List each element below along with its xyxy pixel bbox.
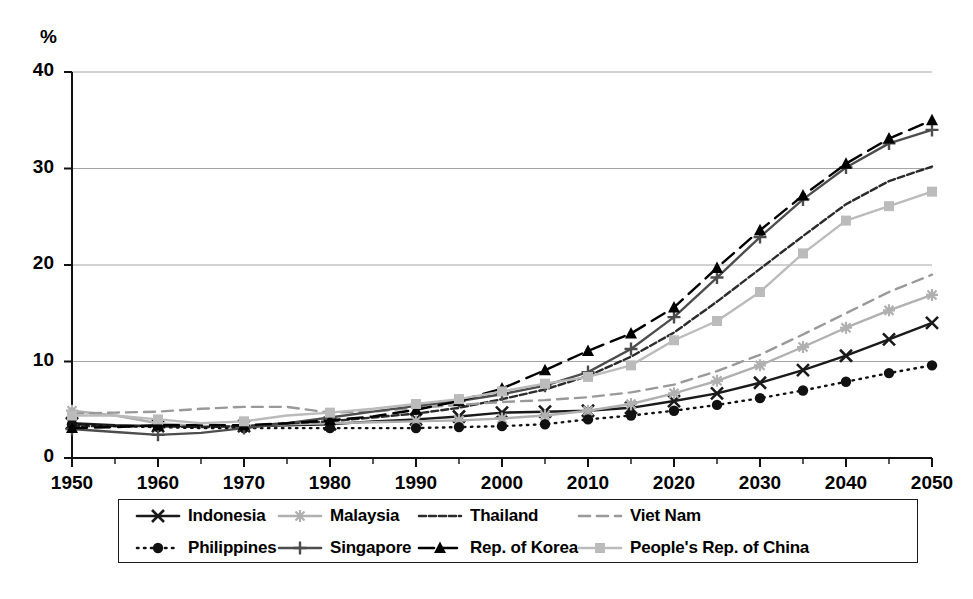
x-tick-label-2040: 2040 bbox=[811, 472, 881, 494]
marker-circle bbox=[841, 377, 851, 387]
marker-square bbox=[626, 360, 636, 370]
marker-star bbox=[754, 359, 766, 371]
marker-circle bbox=[755, 393, 765, 403]
legend-swatch-line-icon bbox=[577, 506, 623, 526]
marker-circle bbox=[454, 422, 464, 432]
marker-square bbox=[841, 216, 851, 226]
marker-square bbox=[583, 372, 593, 382]
y-tick-label-10: 10 bbox=[14, 349, 54, 371]
marker-square bbox=[798, 248, 808, 258]
y-tick-label-20: 20 bbox=[14, 252, 54, 274]
marker-circle bbox=[712, 400, 722, 410]
marker-circle bbox=[497, 421, 507, 431]
marker-triangle bbox=[625, 327, 637, 339]
marker-square bbox=[325, 408, 335, 418]
marker-square bbox=[540, 379, 550, 389]
marker-circle bbox=[884, 368, 894, 378]
legend-swatch-x-icon bbox=[135, 506, 181, 526]
x-tick-label-2010: 2010 bbox=[553, 472, 623, 494]
legend-label: Malaysia bbox=[330, 506, 399, 526]
marker-triangle bbox=[797, 189, 809, 201]
marker-star bbox=[294, 510, 306, 522]
x-tick-label-1990: 1990 bbox=[381, 472, 451, 494]
series-line bbox=[72, 295, 932, 426]
series-line bbox=[72, 120, 932, 428]
legend-label: Philippines bbox=[188, 538, 276, 558]
marker-circle bbox=[798, 385, 808, 395]
marker-circle bbox=[153, 543, 163, 553]
marker-x bbox=[883, 333, 895, 345]
x-tick-label-2030: 2030 bbox=[725, 472, 795, 494]
marker-square bbox=[927, 187, 937, 197]
legend-item-viet-nam[interactable]: Viet Nam bbox=[569, 500, 701, 532]
y-tick-label-40: 40 bbox=[14, 59, 54, 81]
marker-square bbox=[67, 411, 77, 421]
series-line bbox=[72, 323, 932, 426]
marker-circle bbox=[540, 419, 550, 429]
marker-circle bbox=[583, 414, 593, 424]
legend-swatch-plus-icon bbox=[277, 538, 323, 558]
marker-square bbox=[454, 394, 464, 404]
x-tick-label-1970: 1970 bbox=[209, 472, 279, 494]
x-tick-label-2020: 2020 bbox=[639, 472, 709, 494]
marker-plus bbox=[294, 542, 307, 555]
legend-row: PhilippinesSingaporeRep. of KoreaPeople'… bbox=[119, 532, 917, 564]
legend-label: Rep. of Korea bbox=[470, 538, 578, 558]
x-tick-label-1980: 1980 bbox=[295, 472, 365, 494]
marker-star bbox=[926, 289, 938, 301]
legend-swatch-circle-icon bbox=[135, 538, 181, 558]
marker-square bbox=[239, 416, 249, 426]
legend-label: Singapore bbox=[330, 538, 411, 558]
marker-x bbox=[840, 350, 852, 362]
legend-label: Viet Nam bbox=[630, 506, 701, 526]
marker-star bbox=[797, 341, 809, 353]
legend-item-malaysia[interactable]: Malaysia bbox=[269, 500, 399, 532]
marker-square bbox=[411, 399, 421, 409]
marker-square bbox=[153, 414, 163, 424]
marker-square bbox=[712, 316, 722, 326]
x-tick-label-2000: 2000 bbox=[467, 472, 537, 494]
legend-item-rep-of-korea[interactable]: Rep. of Korea bbox=[409, 532, 578, 564]
line-chart: % 01020304019501960197019801990200020102… bbox=[0, 0, 973, 599]
legend-row: IndonesiaMalaysiaThailandViet Nam bbox=[119, 500, 917, 532]
legend-item-indonesia[interactable]: Indonesia bbox=[127, 500, 266, 532]
legend-item-people-s-rep-of-china[interactable]: People's Rep. of China bbox=[569, 532, 809, 564]
legend-swatch-line-icon bbox=[417, 506, 463, 526]
marker-star bbox=[625, 398, 637, 410]
legend-swatch-triangle-icon bbox=[417, 538, 463, 558]
marker-square bbox=[595, 543, 605, 553]
y-tick-label-0: 0 bbox=[14, 445, 54, 467]
x-tick-label-1950: 1950 bbox=[37, 472, 107, 494]
marker-triangle bbox=[926, 114, 938, 126]
x-tick-label-2050: 2050 bbox=[897, 472, 967, 494]
chart-legend: IndonesiaMalaysiaThailandViet NamPhilipp… bbox=[118, 499, 918, 563]
marker-star bbox=[840, 322, 852, 334]
marker-square bbox=[497, 386, 507, 396]
series-malaysia bbox=[66, 289, 938, 432]
marker-circle bbox=[927, 360, 937, 370]
legend-item-singapore[interactable]: Singapore bbox=[269, 532, 411, 564]
marker-x bbox=[926, 317, 938, 329]
marker-circle bbox=[411, 423, 421, 433]
series-rep-of-korea bbox=[66, 114, 938, 433]
marker-star bbox=[883, 304, 895, 316]
x-tick-label-1960: 1960 bbox=[123, 472, 193, 494]
marker-circle bbox=[669, 406, 679, 416]
marker-square bbox=[669, 335, 679, 345]
legend-label: Indonesia bbox=[188, 506, 266, 526]
marker-circle bbox=[626, 410, 636, 420]
legend-item-thailand[interactable]: Thailand bbox=[409, 500, 538, 532]
legend-swatch-star-icon bbox=[277, 506, 323, 526]
marker-star bbox=[711, 375, 723, 387]
marker-square bbox=[755, 287, 765, 297]
y-tick-label-30: 30 bbox=[14, 156, 54, 178]
marker-square bbox=[884, 201, 894, 211]
marker-plus bbox=[926, 123, 939, 136]
marker-triangle bbox=[711, 261, 723, 273]
legend-swatch-square-icon bbox=[577, 538, 623, 558]
marker-star bbox=[668, 387, 680, 399]
legend-label: People's Rep. of China bbox=[630, 538, 809, 558]
legend-item-philippines[interactable]: Philippines bbox=[127, 532, 276, 564]
marker-triangle bbox=[840, 157, 852, 169]
legend-label: Thailand bbox=[470, 506, 538, 526]
